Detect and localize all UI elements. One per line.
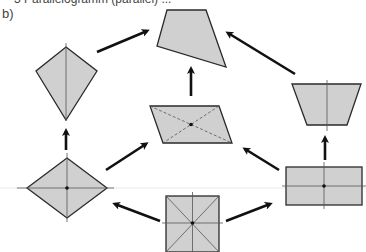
quadrilateral-hierarchy-diagram [0,0,366,252]
kite-shape [36,43,97,121]
arrow-trapezoid-to-quadrilateral [228,33,295,74]
square-shape [162,192,223,252]
center-point [65,186,69,190]
center-point [189,123,193,127]
general-quadrilateral-shape [157,10,226,67]
arrow-rhombus-to-parallelogram [106,144,146,170]
arrow-rectangle-to-parallelogram [245,149,279,170]
parallelogram-shape [150,106,232,143]
rectangle-shape [282,162,366,209]
center-point [191,221,195,225]
isosceles-trapezoid-shape [292,80,361,131]
center-point [322,184,326,188]
arrow-square-to-rectangle [226,204,270,221]
rhombus-shape [17,153,114,222]
arrow-kite-to-quadrilateral [97,31,147,52]
arrow-square-to-rhombus [115,204,160,221]
